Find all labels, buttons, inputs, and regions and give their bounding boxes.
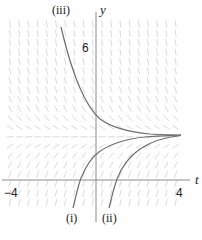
t-axis-label: t xyxy=(195,172,199,187)
slope-mark xyxy=(65,30,66,37)
slope-mark xyxy=(36,162,39,168)
slope-mark xyxy=(18,180,20,187)
slope-mark xyxy=(44,144,50,148)
slope-mark xyxy=(147,49,148,56)
slope-mark xyxy=(46,180,48,187)
slope-mark xyxy=(166,190,168,197)
slope-mark xyxy=(83,180,85,187)
slope-mark xyxy=(46,86,48,93)
slope-mark xyxy=(166,199,168,206)
slope-mark xyxy=(146,115,151,121)
slope-mark xyxy=(18,199,20,206)
slope-mark xyxy=(18,68,20,75)
slope-mark xyxy=(10,30,11,37)
slope-mark xyxy=(127,144,133,148)
slope-mark xyxy=(137,115,142,121)
slope-mark xyxy=(92,30,93,37)
slope-mark xyxy=(55,199,57,206)
slope-mark xyxy=(35,115,40,121)
slope-mark xyxy=(165,96,168,103)
slope-mark xyxy=(110,86,112,93)
slope-mark xyxy=(101,86,103,93)
slope-mark xyxy=(92,68,94,75)
slope-mark xyxy=(25,144,31,148)
slope-mark xyxy=(92,180,94,187)
slope-mark xyxy=(136,126,142,130)
slope-mark xyxy=(101,49,102,56)
slope-mark xyxy=(37,77,39,84)
slope-mark xyxy=(73,171,76,178)
slope-mark xyxy=(165,162,168,168)
slope-mark xyxy=(155,153,159,159)
slope-mark xyxy=(73,180,75,187)
slope-mark xyxy=(36,171,39,178)
slope-mark xyxy=(101,190,103,197)
slope-mark xyxy=(175,49,176,56)
slope-mark xyxy=(166,68,168,75)
slope-mark xyxy=(81,144,87,148)
slope-mark xyxy=(56,20,57,27)
slope-mark xyxy=(157,20,158,27)
slope-mark xyxy=(65,58,66,65)
slope-mark xyxy=(90,126,96,130)
slope-mark xyxy=(18,162,21,168)
slope-mark xyxy=(27,180,29,187)
slope-mark xyxy=(109,115,114,121)
slope-mark xyxy=(120,49,121,56)
slope-mark xyxy=(138,86,140,93)
slope-mark xyxy=(9,39,10,46)
slope-field-marks xyxy=(6,20,179,206)
slope-mark xyxy=(138,68,140,75)
slope-mark xyxy=(138,20,139,27)
slope-mark xyxy=(146,153,150,159)
slope-mark xyxy=(74,30,75,37)
slope-mark xyxy=(18,105,21,111)
slope-mark xyxy=(71,144,77,148)
slope-mark xyxy=(99,126,105,130)
slope-mark xyxy=(19,49,20,56)
slope-mark xyxy=(64,180,66,187)
slope-mark xyxy=(9,96,12,103)
slope-mark xyxy=(101,68,103,75)
slope-mark xyxy=(111,49,112,56)
slope-mark xyxy=(129,68,131,75)
slope-mark xyxy=(37,58,38,65)
slope-mark xyxy=(157,58,158,65)
slope-mark xyxy=(7,126,13,130)
slope-mark xyxy=(65,20,66,27)
slope-mark xyxy=(26,115,31,121)
slope-mark xyxy=(83,58,84,65)
slope-mark xyxy=(148,30,149,37)
slope-mark xyxy=(165,86,167,93)
slope-mark xyxy=(110,68,112,75)
slope-mark xyxy=(147,68,149,75)
slope-mark xyxy=(137,105,140,111)
slope-mark xyxy=(9,68,11,75)
slope-mark xyxy=(37,39,38,46)
slope-mark xyxy=(163,126,169,130)
slope-mark xyxy=(147,199,149,206)
slope-mark xyxy=(44,126,50,130)
slope-mark xyxy=(9,86,11,93)
slope-mark xyxy=(164,153,168,159)
slope-mark xyxy=(92,86,94,93)
slope-mark xyxy=(118,153,122,159)
slope-mark xyxy=(156,171,159,178)
slope-mark xyxy=(17,115,22,121)
slope-mark xyxy=(92,171,95,178)
slope-mark xyxy=(101,96,104,103)
slope-mark xyxy=(36,96,39,103)
slope-mark xyxy=(165,171,168,178)
slope-mark xyxy=(91,162,94,168)
slope-mark xyxy=(157,49,158,56)
slope-mark xyxy=(18,86,20,93)
slope-mark xyxy=(102,20,103,27)
slope-mark xyxy=(92,49,93,56)
slope-mark xyxy=(83,86,85,93)
slope-mark xyxy=(54,115,59,121)
slope-mark xyxy=(138,190,140,197)
slope-mark xyxy=(64,68,66,75)
slope-mark xyxy=(110,96,113,103)
slope-mark xyxy=(111,30,112,37)
slope-mark xyxy=(73,96,76,103)
